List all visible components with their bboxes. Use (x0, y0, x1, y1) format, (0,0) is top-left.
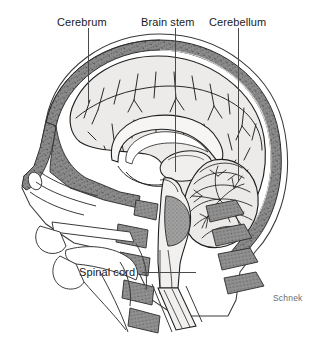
label-brain-stem: Brain stem (141, 16, 195, 28)
figure-canvas: Cerebrum Brain stem Cerebellum Spinal co… (0, 0, 320, 340)
label-cerebellum: Cerebellum (209, 16, 266, 28)
brain-anatomy-diagram (0, 0, 320, 340)
label-spinal-cord: Spinal cord (79, 266, 135, 278)
artist-signature: Schnek (273, 293, 303, 303)
label-cerebrum: Cerebrum (57, 16, 107, 28)
